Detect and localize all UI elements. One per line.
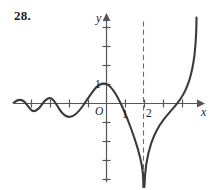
x-axis-label: x (200, 105, 207, 119)
y-tick-label-one: 1 (95, 78, 101, 90)
curve-left-branch (14, 84, 144, 187)
x-tick-label-one: 1 (122, 108, 128, 120)
graph-canvas: y x O 1 1 2 (0, 0, 215, 190)
y-axis-arrowhead (103, 13, 111, 21)
y-axis-label: y (95, 11, 102, 25)
curve-right-branch (144, 18, 196, 188)
x-tick-label-two: 2 (146, 107, 152, 119)
origin-label: O (95, 105, 104, 117)
math-figure: 28. (0, 0, 215, 190)
